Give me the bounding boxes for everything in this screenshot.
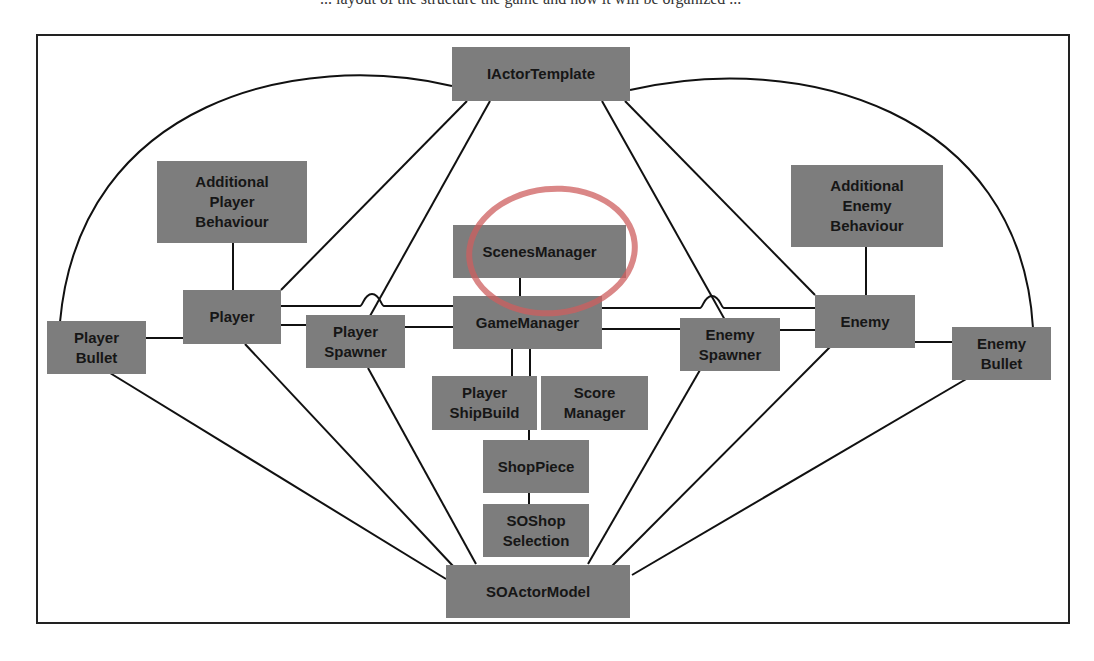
node-label: SOActorModel [486,582,590,602]
node-label: Score Manager [564,383,626,423]
node-enemy[interactable]: Enemy [815,295,915,348]
link-iactor-player-spawner [370,101,490,316]
link-iactor-enemy [625,101,815,295]
node-label: ScenesManager [482,242,596,262]
link-player-gamemanager [281,294,454,306]
node-shop-piece[interactable]: ShopPiece [483,440,589,493]
link-iactor-enemy-spawner [602,101,725,320]
node-additional-enemy-behaviour[interactable]: Additional Enemy Behaviour [791,165,943,247]
node-label: Player Bullet [74,328,119,368]
node-label: IActorTemplate [487,64,595,84]
node-player-spawner[interactable]: Player Spawner [306,315,405,368]
node-label: GameManager [476,313,579,333]
node-enemy-bullet[interactable]: Enemy Bullet [952,327,1051,380]
node-label: Player Spawner [324,322,387,362]
node-label: ShopPiece [498,457,575,477]
node-label: Enemy Spawner [699,325,762,365]
node-label: SOShop Selection [503,511,570,551]
node-iactor-template[interactable]: IActorTemplate [452,47,630,101]
node-label: Player [209,307,254,327]
link-enemy-bullet-model [632,378,968,575]
node-scenes-manager[interactable]: ScenesManager [453,225,626,278]
node-label: Additional Enemy Behaviour [830,176,903,236]
link-player-bullet-model [110,373,446,579]
node-label: Player ShipBuild [450,383,520,423]
node-label: Additional Player Behaviour [195,172,268,232]
link-iactor-player [281,101,467,290]
node-label: Enemy Bullet [977,334,1026,374]
node-score-manager[interactable]: Score Manager [541,376,648,430]
node-so-actor-model[interactable]: SOActorModel [446,565,630,618]
node-label: Enemy [840,312,889,332]
node-player[interactable]: Player [183,290,281,344]
node-additional-player-behaviour[interactable]: Additional Player Behaviour [157,161,307,243]
node-player-bullet[interactable]: Player Bullet [47,321,146,374]
node-so-shop-selection[interactable]: SOShop Selection [483,504,589,557]
link-gamemanager-enemy [602,296,815,308]
node-game-manager[interactable]: GameManager [453,296,602,349]
node-player-ship-build[interactable]: Player ShipBuild [432,376,537,430]
node-enemy-spawner[interactable]: Enemy Spawner [680,318,780,371]
link-player-model [245,344,453,566]
